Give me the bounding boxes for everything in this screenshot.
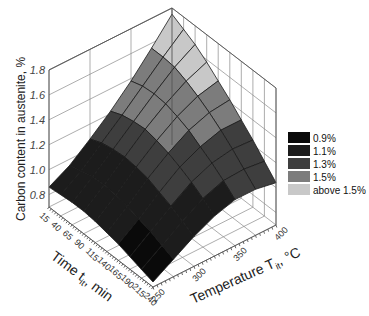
x-minor-tick [64, 219, 65, 221]
x-minor-tick [122, 264, 124, 266]
x-tick-label: 15 [38, 210, 52, 224]
y-minor-tick [202, 262, 203, 265]
x-tick-label: 40 [49, 219, 63, 233]
x-minor-tick [112, 257, 114, 259]
legend-swatch [288, 145, 310, 156]
y-minor-tick [251, 237, 252, 240]
z-tick-label: 1.8 [30, 64, 46, 76]
y-minor-tick [264, 231, 265, 234]
legend-label: 1.1% [313, 146, 336, 157]
x-minor-tick [85, 235, 87, 237]
legend-swatch [288, 132, 310, 143]
z-tick-label: 1.6 [30, 89, 46, 101]
y-minor-tick [276, 225, 277, 228]
y-minor-tick [272, 227, 273, 230]
x-minor-tick [48, 207, 50, 209]
y-minor-tick [198, 264, 199, 267]
y-minor-tick [219, 254, 220, 257]
z-axis-label: Carbon content in austenite, % [14, 57, 28, 221]
x-minor-tick [59, 216, 61, 218]
y-minor-tick [165, 281, 166, 284]
x-minor-tick [110, 255, 112, 257]
x-minor-tick [135, 275, 137, 277]
y-minor-tick [223, 252, 224, 255]
x-minor-tick [149, 285, 151, 287]
x-minor-tick [68, 223, 70, 225]
x-minor-tick [108, 253, 110, 255]
y-minor-tick [227, 250, 228, 253]
x-minor-tick [133, 273, 135, 275]
y-minor-tick [161, 283, 162, 286]
legend-label: above 1.5% [313, 185, 366, 196]
legend-label: 1.5% [313, 172, 336, 183]
x-minor-tick [89, 239, 91, 241]
y-minor-tick [235, 246, 236, 249]
y-tick-label: 350 [231, 245, 249, 263]
z-tick-label: 1.0 [30, 164, 46, 176]
x-minor-tick [98, 246, 100, 248]
y-minor-tick [268, 229, 269, 232]
x-minor-tick [50, 209, 52, 211]
y-minor-tick [247, 240, 248, 243]
x-minor-tick [61, 218, 63, 220]
x-minor-tick [91, 241, 93, 243]
y-minor-tick [186, 271, 187, 274]
y-minor-tick [231, 248, 232, 251]
x-minor-tick [105, 251, 107, 253]
legend: 0.9%1.1%1.3%1.5%above 1.5% [288, 132, 366, 196]
x-minor-tick [57, 214, 59, 216]
legend-label: 1.3% [313, 159, 336, 170]
x-minor-tick [101, 248, 103, 250]
y-minor-tick [206, 260, 207, 263]
x-minor-tick [94, 243, 96, 245]
x-minor-tick [147, 283, 149, 285]
y-minor-tick [215, 256, 216, 259]
legend-label: 0.9% [313, 133, 336, 144]
x-minor-tick [128, 269, 130, 271]
x-minor-tick [66, 221, 68, 223]
x-minor-tick [103, 250, 105, 252]
x-minor-tick [117, 260, 119, 262]
z-tick-label: 1.2 [30, 139, 45, 151]
legend-swatch [288, 171, 310, 182]
x-minor-tick [54, 212, 56, 214]
z-tick-label: 0.8 [30, 189, 46, 201]
y-minor-tick [256, 235, 257, 238]
x-minor-tick [75, 228, 77, 230]
y-minor-tick [169, 279, 170, 282]
x-minor-tick [71, 225, 73, 227]
x-minor-tick [96, 244, 98, 246]
legend-swatch [288, 158, 310, 169]
x-minor-tick [80, 232, 82, 234]
y-minor-tick [260, 233, 261, 236]
y-minor-tick [194, 266, 195, 269]
z-tick-label: 1.4 [30, 114, 45, 126]
y-minor-tick [239, 244, 240, 247]
x-minor-tick [82, 234, 84, 236]
x-minor-tick [140, 278, 142, 280]
y-minor-tick [153, 287, 154, 290]
y-axis-label-unit: , °C [275, 244, 303, 268]
x-minor-tick [87, 237, 89, 239]
x-minor-tick [142, 280, 144, 282]
y-tick-label: 400 [272, 225, 290, 243]
y-tick-label: 300 [190, 266, 208, 284]
y-minor-tick [182, 273, 183, 276]
x-axis-label-unit: , min [82, 273, 116, 304]
y-minor-tick [243, 242, 244, 245]
x-minor-tick [73, 227, 75, 229]
y-minor-tick [157, 285, 158, 288]
x-minor-tick [126, 267, 128, 269]
x-tick-label: 65 [61, 228, 75, 242]
x-minor-tick [124, 266, 126, 268]
y-minor-tick [174, 277, 175, 280]
x-minor-tick [52, 211, 54, 213]
x-minor-tick [138, 276, 140, 278]
x-axis-label: Time tit, min [47, 248, 116, 306]
y-minor-tick [190, 268, 191, 271]
x-tick-label: 90 [72, 237, 86, 251]
x-minor-tick [78, 230, 80, 232]
x-minor-tick [115, 259, 117, 261]
x-minor-tick [119, 262, 121, 264]
legend-swatch [288, 184, 310, 195]
